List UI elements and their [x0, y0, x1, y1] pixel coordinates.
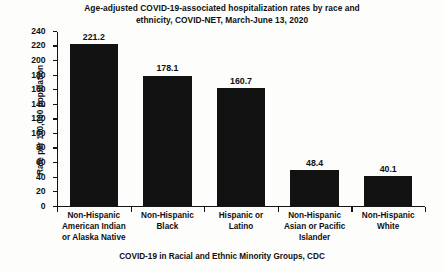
y-axis-tick: 200: [53, 60, 58, 61]
plot-area: 020406080100120140160180200220240 221.21…: [57, 32, 425, 207]
bar-value-label: 160.7: [230, 76, 252, 86]
chart-caption: COVID-19 in Racial and Ethnic Minority G…: [0, 252, 444, 261]
x-axis-category-label-line: Non-Hispanic: [57, 210, 131, 221]
x-axis-category-label: Non-HispanicAmerican Indianor Alaska Nat…: [57, 210, 131, 243]
y-axis-tick-label: 160: [31, 84, 45, 94]
x-axis-category-label-line: Black: [131, 221, 205, 232]
x-axis-category-label-line: Non-Hispanic: [351, 210, 425, 221]
bar-value-label: 40.1: [380, 164, 397, 174]
y-axis-tick-label: 220: [31, 40, 45, 50]
y-axis-tick: 40: [53, 177, 58, 178]
x-axis-category-label-line: or Alaska Native: [57, 232, 131, 243]
x-axis-category-label: Non-HispanicAsian or PacificIslander: [278, 210, 352, 243]
bar: [70, 44, 119, 205]
x-axis-category-label-line: Latino: [204, 221, 278, 232]
y-axis-tick-label: 180: [31, 70, 45, 80]
y-axis-tick: 140: [53, 104, 58, 105]
bar-value-label: 178.1: [156, 63, 178, 73]
x-axis-category-label-line: Non-Hispanic: [131, 210, 205, 221]
y-axis-tick-label: 0: [41, 201, 46, 211]
x-axis-tick: [425, 207, 426, 212]
y-axis-tick: 180: [53, 75, 58, 76]
y-axis-tick-label: 60: [36, 157, 46, 167]
chart-title-line-1: Age-adjusted COVID-19-associated hospita…: [72, 3, 372, 15]
y-axis-line: [57, 32, 58, 207]
x-axis-category-label-line: Non-Hispanic: [278, 210, 352, 221]
bar-value-label: 221.2: [83, 32, 105, 42]
x-axis-category-label: Hispanic orLatino: [204, 210, 278, 232]
y-axis-tick-label: 140: [31, 99, 45, 109]
y-axis-tick: 100: [53, 133, 58, 134]
y-axis-tick: 240: [53, 31, 58, 32]
bar: [290, 170, 339, 205]
x-axis-category-label-line: American Indian: [57, 221, 131, 232]
x-axis-category-label-line: Islander: [278, 232, 352, 243]
chart-title-line-2: ethnicity, COVID-NET, March-June 13, 202…: [72, 15, 372, 27]
x-axis-category-label-line: Hispanic or: [204, 210, 278, 221]
y-axis-tick: 80: [53, 147, 58, 148]
bar: [217, 88, 266, 205]
chart-figure: Age-adjusted COVID-19-associated hospita…: [0, 0, 444, 272]
x-axis-line: [57, 206, 425, 207]
x-axis-category-label: Non-HispanicWhite: [351, 210, 425, 232]
y-axis-tick-label: 100: [31, 128, 45, 138]
y-axis-tick-label: 20: [36, 186, 46, 196]
y-axis-tick: 220: [53, 45, 58, 46]
x-axis-category-label-line: White: [351, 221, 425, 232]
y-axis-tick: 160: [53, 89, 58, 90]
x-axis-category-label-line: Asian or Pacific: [278, 221, 352, 232]
bar-value-label: 48.4: [306, 158, 323, 168]
y-axis-tick: 60: [53, 162, 58, 163]
y-axis-tick: 20: [53, 191, 58, 192]
bar: [143, 76, 192, 206]
y-axis-tick-label: 200: [31, 55, 45, 65]
x-axis-category-label: Non-HispanicBlack: [131, 210, 205, 232]
y-axis-tick-label: 80: [36, 142, 46, 152]
y-axis-tick-label: 240: [31, 26, 45, 36]
y-axis-tick: 120: [53, 118, 58, 119]
y-axis-tick-label: 40: [36, 172, 46, 182]
chart-title: Age-adjusted COVID-19-associated hospita…: [72, 3, 372, 26]
y-axis-tick-label: 120: [31, 113, 45, 123]
bar: [364, 176, 413, 205]
